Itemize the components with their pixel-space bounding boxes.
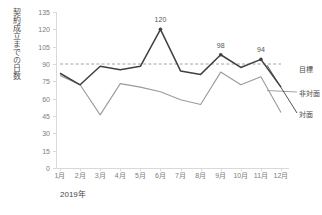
legend-leader-lines xyxy=(0,0,322,215)
line-chart: 契約成立までの日数 0153045607590105120135 1209894… xyxy=(0,0,322,215)
legend-leader xyxy=(267,91,297,92)
legend-leader xyxy=(267,65,297,113)
